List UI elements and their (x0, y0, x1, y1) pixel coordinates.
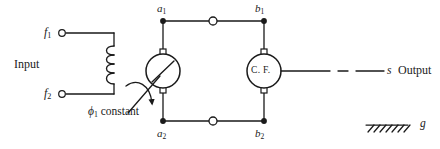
node-a2-dot (160, 118, 166, 124)
node-a1-dot (160, 18, 166, 24)
field-coil-icon (107, 46, 115, 84)
label-node-a1: a1 (157, 3, 166, 15)
label-input: Input (14, 58, 39, 70)
label-shaft-s: s (387, 65, 391, 77)
terminal-f1-icon[interactable] (59, 30, 66, 37)
node-b1-dot (261, 18, 267, 24)
label-flux-constant: ϕ1 constant (88, 106, 139, 119)
label-f2: f2 (44, 87, 51, 101)
label-f1: f1 (44, 26, 51, 40)
node-b2-dot (261, 118, 267, 124)
bottom-mid-terminal-icon[interactable] (209, 117, 217, 125)
schematic-figure: f1 f2 Input ϕ1 constant a1 a2 b1 b2 C. F… (0, 0, 440, 149)
input-wire-bottom (66, 84, 114, 94)
top-mid-terminal-icon[interactable] (209, 17, 217, 25)
ground-icon (366, 125, 410, 132)
terminal-f2-icon[interactable] (59, 91, 66, 98)
label-node-b2: b2 (255, 128, 264, 140)
label-node-b1: b1 (255, 3, 264, 15)
label-ground-g: g (420, 118, 426, 130)
schematic-canvas (0, 0, 440, 149)
label-cross-field: C. F. (251, 66, 270, 76)
label-output: Output (398, 64, 431, 76)
label-node-a2: a2 (157, 128, 166, 140)
input-wire-top (66, 33, 114, 46)
